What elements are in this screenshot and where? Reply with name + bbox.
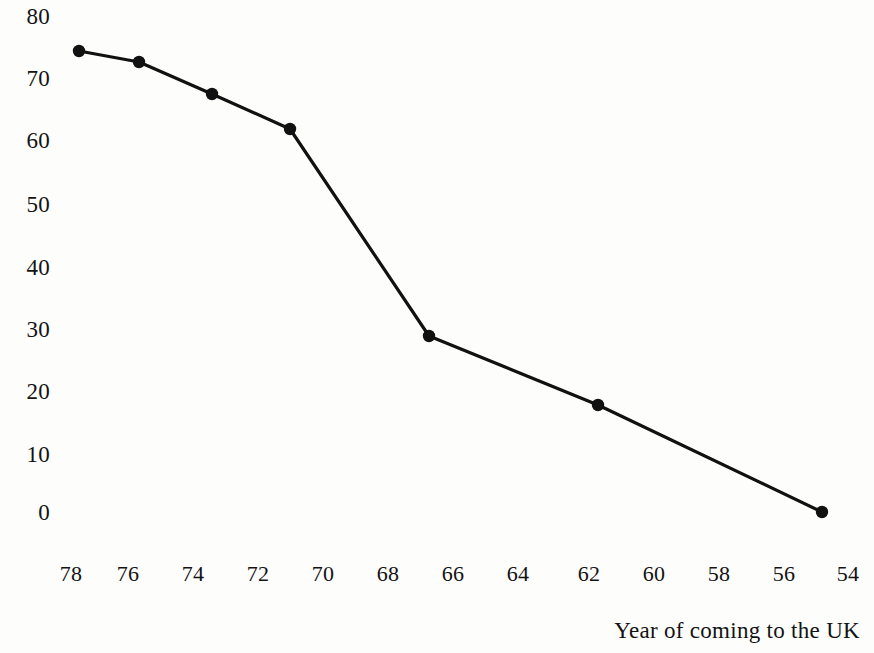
data-point-marker xyxy=(592,399,604,411)
data-point-marker xyxy=(423,330,435,342)
data-point-marker xyxy=(133,56,145,68)
data-series-line xyxy=(79,51,822,512)
data-series-markers xyxy=(73,45,828,518)
data-point-marker xyxy=(206,88,218,100)
data-point-marker xyxy=(73,45,85,57)
x-axis-title: Year of coming to the UK xyxy=(614,618,860,644)
line-chart-figure: 80706050403020100 7876747270686664626058… xyxy=(0,0,874,653)
plot-area xyxy=(0,0,874,653)
data-point-marker xyxy=(816,506,828,518)
data-point-marker xyxy=(284,123,296,135)
